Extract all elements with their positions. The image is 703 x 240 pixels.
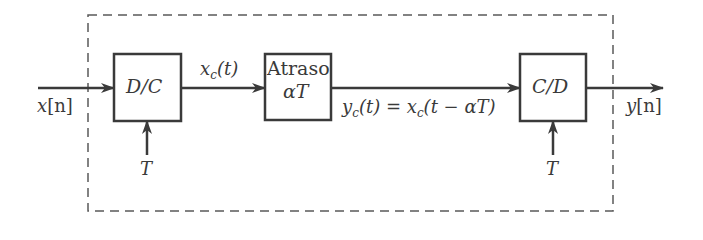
yc-rhs-name: x [407,96,417,117]
delay-block-label-line2: αT [283,80,309,102]
yc-rhs-sub: c [417,106,424,120]
input-signal-name: x [37,95,47,116]
yc-lhs-name: y [342,96,352,117]
yc-lhs-arg: (t) [359,96,380,117]
xc-name: x [200,58,210,79]
xc-arg: (t) [217,58,238,79]
cd-block-label: C/D [532,75,568,97]
xc-sub: c [210,68,217,82]
input-signal-label: x[n] [37,95,73,116]
yc-equals: = [380,96,407,117]
input-signal-index: [n] [47,95,73,116]
dc-block-label: D/C [126,75,162,97]
delay-block-label-line1: Atraso [267,57,330,79]
dc-clock-label: T [140,158,152,179]
xc-signal-label: xc(t) [200,58,238,82]
output-signal-index: [n] [636,95,662,116]
cd-clock-label: T [546,158,558,179]
yc-signal-label: yc(t) = xc(t − αT) [342,96,496,120]
output-signal-label: y[n] [626,95,662,116]
yc-lhs-sub: c [352,106,359,120]
output-signal-name: y [626,95,636,116]
yc-rhs-arg: (t − αT) [424,96,496,117]
